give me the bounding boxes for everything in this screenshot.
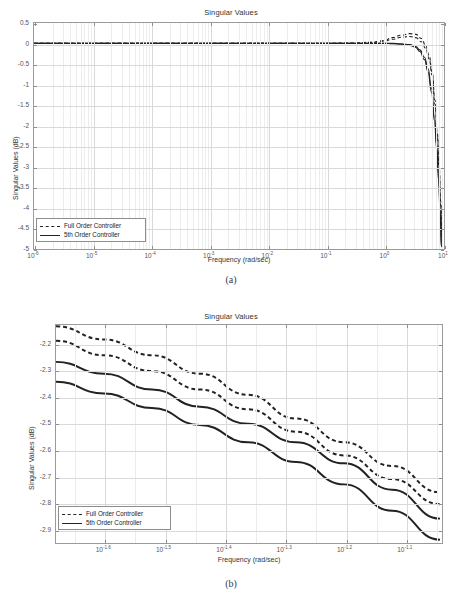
- y-tick: [56, 504, 59, 505]
- gridline-horizontal: [34, 127, 444, 128]
- y-tick: [439, 424, 442, 425]
- x-tick: [152, 23, 153, 26]
- gridline-vertical: [152, 23, 153, 249]
- gridline-vertical-minor: [149, 23, 150, 249]
- x-tick: [445, 246, 446, 249]
- y-tick: [34, 86, 37, 87]
- figure-a: Singular Values Frequency (rad/sec) Sing…: [0, 0, 462, 300]
- gridline-vertical-minor: [267, 23, 268, 249]
- gridline-vertical-minor: [297, 23, 298, 249]
- y-axis-title-b: Singular Values (dB): [28, 426, 35, 490]
- y-tick: [439, 504, 442, 505]
- gridline-vertical-minor: [143, 23, 144, 249]
- y-tick: [441, 188, 444, 189]
- gridline-horizontal: [56, 504, 442, 505]
- y-tick: [441, 106, 444, 107]
- y-tick: [439, 398, 442, 399]
- x-tick: [386, 23, 387, 26]
- gridline-vertical: [226, 325, 227, 543]
- x-tick-label: 10-1.3: [277, 546, 292, 553]
- y-tick: [441, 250, 444, 251]
- y-tick: [56, 398, 59, 399]
- gridline-vertical-minor: [442, 23, 443, 249]
- gridline-vertical-minor: [345, 23, 346, 249]
- caption-a: (a): [0, 274, 462, 285]
- gridline-vertical: [94, 23, 95, 249]
- x-tick: [152, 246, 153, 249]
- legend-item[interactable]: Full Order Controller: [40, 221, 141, 230]
- legend-a[interactable]: Full Order Controller5th Order Controlle…: [36, 218, 146, 242]
- gridline-vertical: [286, 325, 287, 543]
- gridline-horizontal: [34, 188, 444, 189]
- y-tick-label: -2.2: [29, 339, 51, 346]
- gridline-horizontal: [56, 424, 442, 425]
- x-tick: [105, 325, 106, 328]
- y-tick: [441, 147, 444, 148]
- gridline-horizontal: [34, 86, 444, 87]
- y-tick-label: -2.5: [7, 142, 29, 149]
- gridline-vertical-minor: [146, 23, 147, 249]
- x-tick: [347, 540, 348, 543]
- legend-line-icon: [62, 510, 82, 517]
- legend-b[interactable]: Full Order Controller5th Order Controlle…: [58, 506, 171, 530]
- gridline-vertical-minor: [63, 23, 64, 249]
- gridline-vertical-minor: [81, 23, 82, 249]
- gridline-vertical-minor: [287, 23, 288, 249]
- legend-item[interactable]: Full Order Controller: [62, 509, 166, 518]
- x-tick: [286, 325, 287, 328]
- gridline-vertical-minor: [381, 23, 382, 249]
- y-tick-label: -2.4: [29, 392, 51, 399]
- y-tick: [441, 168, 444, 169]
- x-tick-label: 10-4: [144, 252, 155, 259]
- y-tick: [34, 188, 37, 189]
- gridline-vertical-minor: [193, 23, 194, 249]
- legend-label: 5th Order Controller: [86, 519, 142, 526]
- gridline-vertical-minor: [414, 23, 415, 249]
- gridline-vertical-minor: [88, 23, 89, 249]
- gridline-vertical-minor: [436, 23, 437, 249]
- gridline-vertical-minor: [256, 325, 257, 543]
- x-tick: [286, 540, 287, 543]
- gridline-horizontal: [56, 398, 442, 399]
- gridline-vertical-minor: [139, 23, 140, 249]
- x-tick-label: 10-1.6: [96, 546, 111, 553]
- y-tick-label: -4.5: [7, 224, 29, 231]
- y-tick-label: -1.5: [7, 101, 29, 108]
- gridline-horizontal: [34, 147, 444, 148]
- legend-label: Full Order Controller: [64, 222, 121, 229]
- gridline-vertical-minor: [384, 23, 385, 249]
- y-tick: [439, 371, 442, 372]
- gridline-vertical-minor: [252, 23, 253, 249]
- gridline-vertical-minor: [205, 23, 206, 249]
- y-tick-label: -2.6: [29, 445, 51, 452]
- x-tick-label: 10-6: [27, 252, 38, 259]
- y-tick: [441, 127, 444, 128]
- y-tick-label: -2.3: [29, 366, 51, 373]
- gridline-vertical-minor: [315, 23, 316, 249]
- y-tick: [439, 451, 442, 452]
- gridline-vertical-minor: [111, 23, 112, 249]
- gridline-vertical: [211, 23, 212, 249]
- y-tick: [56, 451, 59, 452]
- chart-title-b: Singular Values: [0, 312, 462, 321]
- gridline-horizontal: [34, 45, 444, 46]
- y-tick-label: -2: [7, 121, 29, 128]
- y-tick-label: -2.5: [29, 419, 51, 426]
- y-tick: [441, 229, 444, 230]
- y-tick-label: -3.5: [7, 183, 29, 190]
- y-tick: [441, 65, 444, 66]
- legend-item[interactable]: 5th Order Controller: [62, 518, 166, 527]
- gridline-horizontal: [56, 478, 442, 479]
- legend-label: 5th Order Controller: [64, 231, 120, 238]
- x-tick-label: 10-1.1: [397, 546, 412, 553]
- legend-item[interactable]: 5th Order Controller: [40, 230, 141, 239]
- gridline-vertical-minor: [228, 23, 229, 249]
- gridline-vertical: [386, 23, 387, 249]
- gridline-vertical-minor: [316, 325, 317, 543]
- gridline-vertical-minor: [325, 23, 326, 249]
- y-tick-label: 0: [7, 39, 29, 46]
- gridline-vertical-minor: [76, 23, 77, 249]
- x-tick: [328, 23, 329, 26]
- y-tick: [56, 345, 59, 346]
- gridline-vertical-minor: [322, 23, 323, 249]
